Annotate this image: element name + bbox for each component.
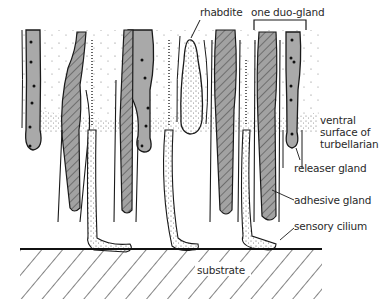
label-one-duo-gland: one duo-gland	[251, 6, 324, 18]
label-sensory-cilium: sensory cilium	[294, 220, 367, 232]
label-adhesive-gland: adhesive gland	[294, 194, 371, 206]
label-ventral-line2: surface of	[320, 126, 370, 138]
label-ventral-line1: ventral	[320, 114, 356, 126]
duo-gland-diagram: rhabdite one duo-gland ventral surface o…	[0, 0, 387, 307]
label-releaser-gland: releaser gland	[294, 162, 366, 174]
label-rhabdite: rhabdite	[200, 6, 242, 18]
duo-gland-bracket	[254, 20, 306, 30]
label-ventral-line3: turbellarian	[320, 138, 378, 150]
substrate	[20, 249, 322, 299]
label-substrate: substrate	[197, 264, 245, 276]
diagram-canvas	[0, 0, 387, 307]
